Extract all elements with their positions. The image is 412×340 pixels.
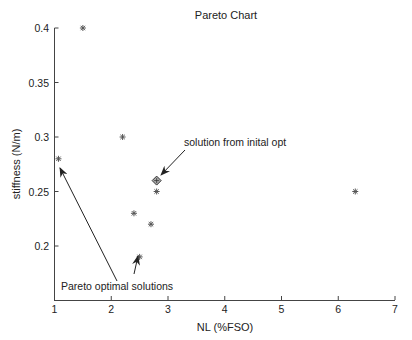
x-tick-label: 3	[165, 303, 171, 315]
x-tick-label: 1	[52, 303, 58, 315]
arrow-pareto-right	[134, 256, 138, 274]
y-axis-label: stiffness (N/m)	[10, 129, 22, 200]
diamond-marker	[152, 176, 161, 185]
asterisk-marker	[120, 134, 126, 140]
axes	[54, 28, 395, 301]
x-tick-label: 5	[279, 303, 285, 315]
x-tick-label: 2	[108, 303, 114, 315]
asterisk-marker	[352, 189, 358, 195]
x-tick-label: 6	[335, 303, 341, 315]
chart-title: Pareto Chart	[195, 9, 257, 21]
x-tick-label: 4	[222, 303, 228, 315]
asterisk-marker	[154, 189, 160, 195]
y-tick-label: 0.3	[34, 131, 49, 143]
arrow-pareto-left	[60, 168, 117, 281]
asterisk-marker	[55, 156, 61, 162]
y-tick-label: 0.25	[29, 186, 50, 198]
asterisk-marker	[148, 221, 154, 227]
annotation-pareto-optimal-label: Pareto optimal solutions	[61, 280, 173, 292]
y-tick-label: 0.4	[34, 22, 49, 34]
y-tick-label: 0.35	[29, 77, 50, 89]
annotation-pareto-optimal: Pareto optimal solutions	[60, 168, 173, 292]
x-axis-label: NL (%FSO)	[197, 321, 253, 333]
annotation-initial-opt-label: solution from inital opt	[184, 136, 286, 148]
y-tick-label: 0.2	[34, 240, 49, 252]
annotation-initial-opt: solution from inital opt	[161, 136, 286, 175]
pareto-chart: Pareto Chart 1234567 0.20.250.30.350.4 N…	[0, 0, 412, 340]
asterisk-marker	[131, 210, 137, 216]
x-tick-label: 7	[392, 303, 398, 315]
asterisk-marker	[80, 25, 86, 31]
arrow-initial-opt	[161, 150, 185, 175]
x-ticks: 1234567	[52, 296, 399, 315]
